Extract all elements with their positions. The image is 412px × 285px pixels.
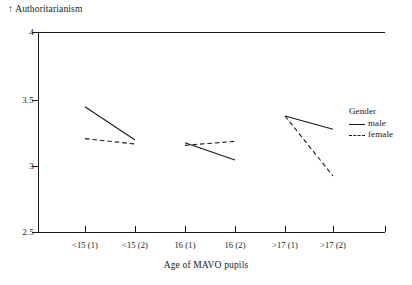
series-female-segment-3 [285, 116, 333, 176]
series-female-segment-1 [85, 139, 135, 144]
legend-key-solid-line-icon [349, 120, 365, 129]
chart-figure: ↑Authoritarianism 4 3.5 3 2.5 <15 (1) <1… [0, 0, 412, 285]
legend-entry-male: male [349, 119, 393, 130]
series-male-segment-2 [185, 143, 235, 160]
legend-key-dashed-line-icon [349, 131, 365, 140]
series-male-segment-1 [85, 107, 135, 140]
legend-label-male: male [368, 118, 386, 130]
legend: Gender male female [349, 106, 393, 141]
series-male-segment-3 [285, 116, 333, 129]
legend-title: Gender [349, 106, 393, 118]
legend-entry-female: female [349, 130, 393, 141]
legend-label-female: female [368, 129, 393, 141]
plot-area [0, 0, 412, 285]
series-female-segment-2 [185, 141, 235, 145]
data-series-group [85, 107, 333, 176]
